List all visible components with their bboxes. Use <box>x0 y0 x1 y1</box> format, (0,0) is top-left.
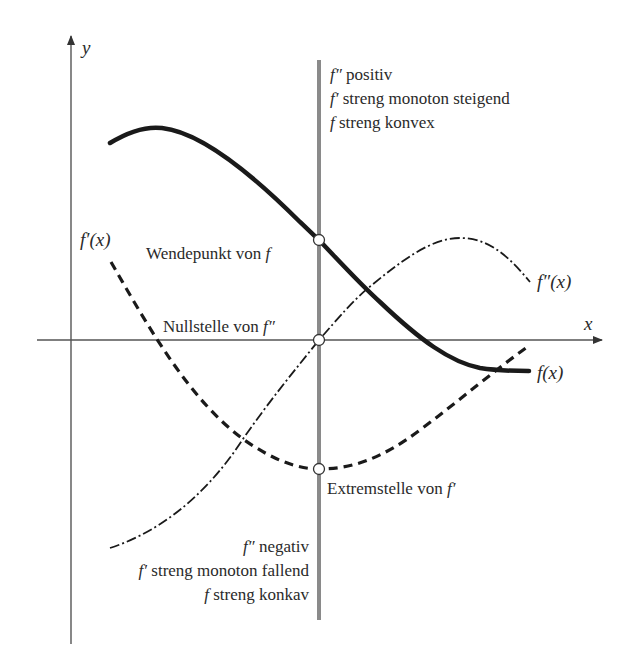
left-line-2-text: streng monoton fallend <box>147 561 309 580</box>
zero-f2-marker <box>314 335 325 346</box>
extremum-label-text: Extremstelle von <box>327 479 447 498</box>
right-line-1: f″ positiv <box>330 65 510 85</box>
f-prime-label: f′(x) <box>80 230 111 250</box>
zero-f2-label: Nullstelle von f″ <box>163 317 275 337</box>
zero-f2-label-func: f″ <box>263 317 275 336</box>
inflection-point-label: Wendepunkt von f <box>146 244 270 264</box>
left-line-3: f streng konkav <box>139 585 309 605</box>
y-axis-label: y <box>82 38 90 58</box>
left-line-1-text: negativ <box>255 537 309 556</box>
left-line-2-func: f′ <box>139 561 147 580</box>
extremum-label-func: f′ <box>447 479 455 498</box>
left-line-1-func: f″ <box>243 537 255 556</box>
left-line-3-text: streng konkav <box>209 585 309 604</box>
inflection-label-text: Wendepunkt von <box>146 244 266 263</box>
extremum-f1-marker <box>314 464 325 475</box>
x-axis-label: x <box>584 314 592 334</box>
f-double-prime-label: f″(x) <box>537 272 571 292</box>
right-line-2-text: streng monoton steigend <box>338 89 509 108</box>
inflection-point-marker <box>314 235 325 246</box>
right-line-3: f streng konvex <box>330 113 510 133</box>
right-region-description: f″ positiv f′ streng monoton steigend f … <box>330 65 510 133</box>
f-label: f(x) <box>537 363 563 383</box>
zero-f2-label-text: Nullstelle von <box>163 317 263 336</box>
right-line-1-text: positiv <box>342 65 393 84</box>
inflection-label-func: f <box>266 244 271 263</box>
extremum-f1-label: Extremstelle von f′ <box>327 479 455 499</box>
left-line-1: f″ negativ <box>139 537 309 557</box>
right-line-2: f′ streng monoton steigend <box>330 89 510 109</box>
diagram-canvas <box>0 0 630 664</box>
left-line-2: f′ streng monoton fallend <box>139 561 309 581</box>
right-line-3-text: streng konvex <box>335 113 435 132</box>
left-region-description: f″ negativ f′ streng monoton fallend f s… <box>139 537 309 605</box>
right-line-1-func: f″ <box>330 65 342 84</box>
